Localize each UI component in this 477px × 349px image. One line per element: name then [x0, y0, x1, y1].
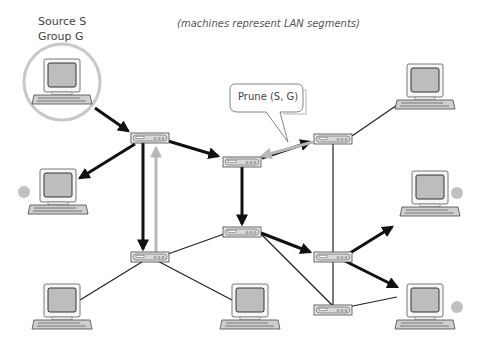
- prune-bubble-text: Prune (S, G): [238, 91, 298, 102]
- host-source: [32, 59, 92, 104]
- host-bottom-right: [395, 284, 455, 329]
- host-right-middle: [400, 171, 460, 216]
- no-member-dot-left: [18, 186, 30, 198]
- router-r5: [131, 252, 169, 262]
- host-bottom-center: [220, 284, 280, 329]
- router-r4: [223, 227, 261, 237]
- router-r2: [223, 157, 261, 167]
- arrow-r1-to-left-host: [80, 144, 135, 178]
- no-member-dot-bottom-right: [451, 301, 463, 313]
- router-r6: [314, 252, 352, 262]
- arrow-r6-to-top-right-host: [350, 227, 392, 253]
- arrow-r4-to-r6: [261, 233, 310, 252]
- host-left-middle: [28, 169, 88, 214]
- host-bottom-left: [32, 284, 92, 329]
- source-label: Source S Group G: [38, 14, 86, 44]
- host-top-right: [395, 64, 455, 109]
- multicast-diagram: [0, 0, 477, 349]
- prune-arrow-r3-to-r2: [262, 142, 313, 156]
- arrow-source-to-r1: [95, 108, 128, 131]
- router-r3: [314, 134, 352, 144]
- no-member-dot-right-middle: [451, 187, 463, 199]
- caption: (machines represent LAN segments): [177, 18, 360, 29]
- source-label-line2: Group G: [38, 29, 86, 44]
- arrow-r6-to-bottom-right-host: [345, 261, 397, 287]
- router-r1: [131, 133, 169, 143]
- arrow-r1-to-r2: [168, 141, 218, 156]
- router-r7: [314, 305, 352, 315]
- source-label-line1: Source S: [38, 14, 86, 29]
